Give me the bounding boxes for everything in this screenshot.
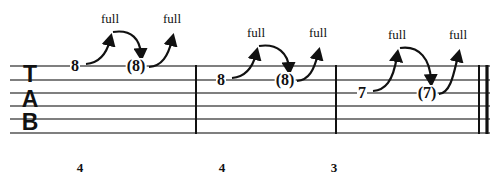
- bend-up-curve-m3a: [373, 56, 397, 91]
- bend-release-curve-m1: [113, 32, 141, 54]
- tablature-canvas: T A B full full full full full full 8 (8…: [0, 0, 500, 184]
- tablature-staff-graphics: [0, 0, 500, 184]
- measure-2-bend-group: [232, 46, 318, 81]
- measure-1-bend-group: [86, 32, 172, 67]
- bend-up-curve-m2b: [297, 54, 318, 81]
- staff-lines: [10, 66, 490, 133]
- bend-up-curve-m1a: [86, 40, 110, 64]
- bend-up-curve-m1b: [149, 40, 172, 67]
- bend-release-curve-m2: [259, 46, 289, 68]
- measure-3-bend-group: [373, 48, 458, 94]
- bend-release-curve-m3: [400, 48, 431, 80]
- bend-up-curve-m3b: [439, 56, 458, 94]
